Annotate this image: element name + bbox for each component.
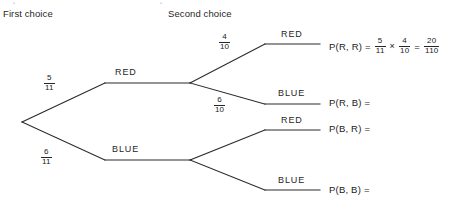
stage2-leaf-label-red-blue: BLUE <box>278 89 305 98</box>
probability-first-red: 5 11 <box>44 74 55 93</box>
stage1-node-label-red: RED <box>115 68 137 77</box>
equals-sign: = <box>365 123 371 134</box>
equals-sign: = <box>365 41 371 52</box>
tree-branch-lines <box>0 0 456 210</box>
outcome-equation-bb: P(B, B) = <box>329 184 373 195</box>
probability-second-red-red: 4 10 <box>219 33 230 52</box>
branch-blue-to-red <box>190 130 265 160</box>
equals-sign: = <box>365 97 371 108</box>
fraction-numerator: 5 <box>44 74 55 83</box>
probability-tree-diagram: • • First choice Second choice RED BLUE <box>0 0 456 210</box>
branch-root-to-red <box>22 83 105 122</box>
multiply-sign: × <box>390 41 395 51</box>
outcome-name: P(R, R) <box>329 41 362 52</box>
stage1-node-label-blue: BLUE <box>112 145 139 154</box>
outcome-factor-1: 5 11 <box>375 37 386 56</box>
fraction-numerator: 5 <box>375 37 386 46</box>
outcome-result: 20 110 <box>424 37 439 56</box>
fraction-numerator: 20 <box>424 37 439 46</box>
probability-first-blue: 6 11 <box>41 148 52 167</box>
branch-blue-to-blue <box>190 160 265 190</box>
outcome-name: P(B, B) <box>329 184 361 195</box>
equals-sign: = <box>364 184 370 195</box>
stage2-leaf-label-blue-red: RED <box>281 116 303 125</box>
outcome-name: P(B, R) <box>329 123 362 134</box>
fraction-denominator: 11 <box>375 46 386 56</box>
probability-second-red-blue: 6 10 <box>214 96 225 115</box>
branch-root-to-blue <box>22 122 105 160</box>
fraction-numerator: 6 <box>214 96 225 105</box>
stage2-leaf-label-red-red: RED <box>281 30 303 39</box>
fraction-numerator: 4 <box>219 33 230 42</box>
outcome-name: P(R, B) <box>329 97 362 108</box>
outcome-equation-rr: P(R, R) = 5 11 × 4 10 = 20 110 <box>329 37 440 56</box>
outcome-factor-2: 4 10 <box>399 37 410 56</box>
column-header-first-choice: First choice <box>3 9 53 19</box>
stage2-leaf-label-blue-blue: BLUE <box>278 176 305 185</box>
branch-red-to-blue <box>190 83 265 104</box>
fraction-denominator: 10 <box>214 105 225 115</box>
fraction-denominator: 110 <box>424 46 439 56</box>
fraction-numerator: 4 <box>399 37 410 46</box>
outcome-equation-br: P(B, R) = <box>329 123 373 134</box>
fraction-denominator: 11 <box>41 157 52 167</box>
fraction-denominator: 11 <box>44 83 55 93</box>
equals-sign-2: = <box>414 41 420 52</box>
fraction-denominator: 10 <box>399 46 410 56</box>
fraction-denominator: 10 <box>219 42 230 52</box>
fraction-numerator: 6 <box>41 148 52 157</box>
outcome-equation-rb: P(R, B) = <box>329 97 373 108</box>
column-header-second-choice: Second choice <box>168 9 232 19</box>
